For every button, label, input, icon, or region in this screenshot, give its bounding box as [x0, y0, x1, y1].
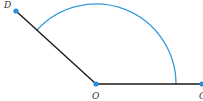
point-D: [13, 8, 18, 13]
point-C: [199, 81, 203, 86]
label-D: D: [3, 0, 11, 10]
angle-diagram: D O C: [0, 0, 203, 101]
segment-OD: [16, 11, 96, 84]
label-C: C: [199, 91, 203, 101]
point-O: [93, 81, 98, 86]
label-O: O: [92, 91, 100, 101]
arc-angle-DOC: [37, 4, 176, 84]
